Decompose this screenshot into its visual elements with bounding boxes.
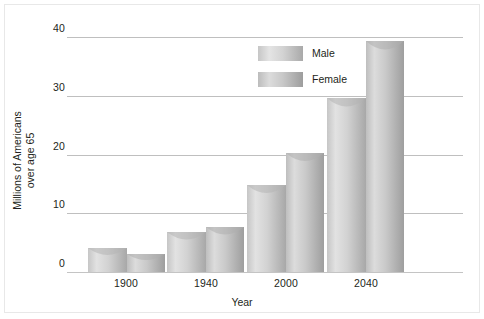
xtick-label-2000: 2000 <box>246 277 326 289</box>
bar-male-2040 <box>327 98 366 272</box>
xtick-label-2040: 2040 <box>326 277 406 289</box>
bar-male-1900 <box>88 248 127 272</box>
x-axis-title: Year <box>0 296 484 308</box>
ytick-label-40: 40 <box>25 22 65 34</box>
chart-legend: Male <box>258 42 347 94</box>
legend-swatch-male-icon <box>258 46 303 61</box>
bar-female-2000 <box>286 153 324 272</box>
ytick-label-0: 0 <box>25 257 65 269</box>
xtick-label-1940: 1940 <box>166 277 246 289</box>
bar-female-1940 <box>206 227 244 272</box>
y-axis-title-line-2: over age 65 <box>23 91 36 231</box>
plot-area: 40 30 20 10 0 <box>0 0 484 319</box>
xtick-label-1900: 1900 <box>86 277 166 289</box>
gridline-40 <box>67 37 463 38</box>
chart-figure: 40 30 20 10 0 <box>0 0 484 319</box>
legend-swatch-female-icon <box>258 72 303 87</box>
legend-label-male: Male <box>312 47 335 59</box>
legend-item-male: Male <box>258 42 347 64</box>
gridline-0 <box>67 272 463 273</box>
bar-female-1900 <box>127 254 165 272</box>
y-axis-title: Millions of Americans over age 65 <box>11 91 36 231</box>
y-axis-title-line-1: Millions of Americans <box>11 91 24 231</box>
legend-label-female: Female <box>312 73 347 85</box>
bar-male-1940 <box>167 232 206 272</box>
bar-male-2000 <box>247 185 286 272</box>
legend-item-female: Female <box>258 68 347 90</box>
bar-female-2040 <box>366 41 404 272</box>
